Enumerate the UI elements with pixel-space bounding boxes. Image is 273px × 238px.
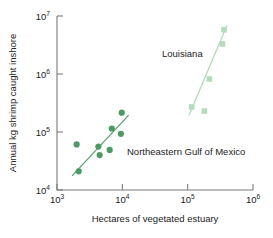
y-tick-label: 104 [36, 184, 51, 196]
y-tick-label: 106 [36, 68, 51, 80]
scatter-plot-canvas: 107106105104 103104105106 Louisiana Nort… [0, 0, 273, 238]
series-label-louisiana: Louisiana [162, 48, 203, 59]
x-tick-label: 105 [181, 193, 196, 205]
x-axis-title: Hectares of vegetated estuary [92, 213, 219, 224]
data-point-louisiana [220, 41, 226, 47]
x-tick-label: 104 [115, 193, 130, 205]
x-axis-ticks [57, 184, 253, 190]
data-point-louisiana [207, 76, 213, 82]
data-point-gulf [76, 168, 82, 174]
data-point-gulf [97, 152, 103, 158]
data-point-gulf [118, 131, 124, 137]
y-tick-label: 105 [36, 126, 51, 138]
trend-line-louisiana [189, 25, 227, 115]
data-point-gulf [109, 125, 115, 131]
y-axis-title: Annual kg shrimp caught inshore [7, 34, 18, 172]
data-point-gulf [74, 141, 80, 147]
x-tick-label: 106 [246, 193, 261, 205]
x-tick-label: 103 [50, 193, 65, 205]
data-point-louisiana [221, 27, 227, 33]
data-point-gulf [95, 144, 101, 150]
chart-figure: 107106105104 103104105106 Louisiana Nort… [0, 0, 273, 238]
y-axis-tick-labels: 107106105104 [36, 10, 51, 196]
data-point-louisiana [189, 104, 195, 110]
data-point-gulf [107, 147, 113, 153]
data-point-gulf [119, 110, 125, 116]
data-point-louisiana [202, 108, 208, 114]
x-axis-tick-labels: 103104105106 [50, 193, 261, 205]
y-axis-ticks [57, 16, 63, 190]
y-tick-label: 107 [36, 10, 51, 22]
series-label-gulf: Northeastern Gulf of Mexico [127, 146, 245, 157]
